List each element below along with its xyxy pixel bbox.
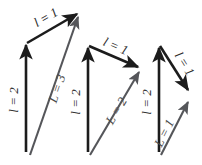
vector-diagram-canvas: l = 2 l = 1 L = 3 l = 2 l = 1 L = 2 l = … [0, 0, 202, 165]
panel-3-second-label: l = 1 [172, 49, 198, 78]
panel-3: l = 2 l = 1 L = 1 [139, 46, 198, 155]
panel-2-vertical-label: l = 2 [68, 89, 83, 115]
panel-1: l = 2 l = 1 L = 3 [6, 4, 78, 155]
panel-2: l = 2 l = 1 L = 2 [68, 34, 139, 155]
panel-2-resultant-label: L = 2 [102, 94, 130, 128]
panel-1-resultant-label: L = 3 [45, 72, 69, 106]
vector-diagram-figure: l = 2 l = 1 L = 3 l = 2 l = 1 L = 2 l = … [0, 0, 202, 165]
panel-3-vertical-label: l = 2 [139, 89, 154, 115]
panel-1-vertical-label: l = 2 [6, 87, 21, 113]
